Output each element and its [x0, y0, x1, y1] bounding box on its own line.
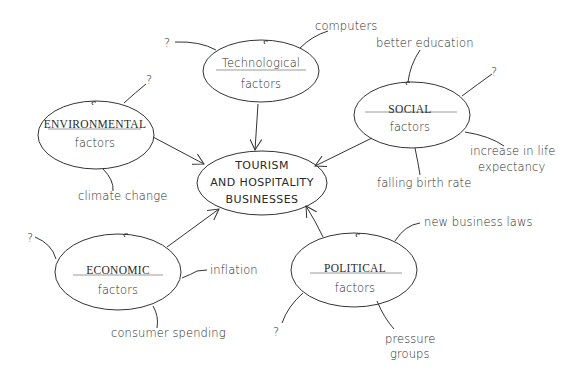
social-branch-education-label: better education — [376, 36, 474, 50]
technological-arrow — [255, 104, 258, 150]
environmental-title: ENVIRONMENTAL — [44, 118, 147, 130]
social-branch-education — [408, 50, 420, 82]
social-branch-question-label: ? — [491, 65, 497, 79]
center-node: TOURISM AND HOSPITALITY BUSINESSES — [197, 151, 327, 215]
economic-arrow — [167, 209, 219, 247]
environmental-branch-question — [124, 84, 146, 103]
economic-branch-spending-label: consumer spending — [111, 326, 226, 340]
economic-branch-question — [35, 237, 56, 259]
technological-node: Technological factors computers ? — [164, 19, 377, 150]
social-node: SOCIAL factors better education ? increa… — [315, 36, 555, 190]
social-branch-life-expectancy-label-1: increase in life — [470, 144, 555, 158]
political-branch-question-label: ? — [273, 325, 279, 339]
environmental-branch-climate — [103, 169, 113, 191]
political-branch-question — [282, 293, 303, 323]
social-subtitle: factors — [390, 120, 430, 134]
technological-branch-question — [175, 42, 216, 50]
center-line-1: TOURISM — [234, 159, 289, 172]
social-branch-question — [462, 74, 492, 96]
environmental-branch-climate-label: climate change — [78, 189, 168, 203]
technological-branch-computers — [300, 31, 328, 48]
economic-branch-question-label: ? — [27, 231, 33, 245]
economic-branch-inflation — [182, 270, 207, 278]
social-branch-birth-rate-label: falling birth rate — [377, 176, 471, 190]
center-line-3: BUSINESSES — [226, 193, 299, 206]
political-arrow — [306, 206, 323, 237]
economic-title: ECONOMIC — [86, 264, 150, 276]
environmental-ellipse — [38, 101, 154, 169]
political-branch-pressure-label-1: pressure — [385, 332, 435, 346]
political-node: POLITICAL factors new business laws ? pr… — [273, 206, 533, 361]
center-line-2: AND HOSPITALITY — [210, 176, 314, 189]
economic-subtitle: factors — [98, 283, 138, 297]
political-subtitle: factors — [335, 281, 375, 295]
technological-branch-computers-label: computers — [315, 19, 377, 33]
political-branch-laws — [395, 223, 420, 241]
social-title: SOCIAL — [388, 103, 431, 115]
environmental-subtitle: factors — [75, 136, 115, 150]
environmental-arrow — [153, 137, 204, 164]
political-branch-pressure-label-2: groups — [390, 347, 430, 361]
technological-ellipse — [203, 40, 319, 102]
economic-branch-spending — [153, 306, 158, 328]
political-branch-pressure — [377, 301, 394, 329]
mind-map-canvas: TOURISM AND HOSPITALITY BUSINESSES Techn… — [0, 0, 575, 384]
political-title: POLITICAL — [324, 262, 386, 274]
social-arrow — [315, 138, 372, 166]
social-branch-birth-rate — [415, 148, 420, 175]
social-branch-life-expectancy-label-2: expectancy — [478, 160, 545, 174]
technological-title: Technological — [222, 56, 300, 70]
environmental-node: ENVIRONMENTAL factors ? climate change — [38, 73, 204, 203]
technological-branch-question-label: ? — [164, 36, 170, 50]
economic-branch-inflation-label: inflation — [210, 263, 258, 277]
political-branch-laws-label: new business laws — [424, 215, 533, 229]
technological-subtitle: factors — [241, 77, 281, 91]
environmental-branch-question-label: ? — [146, 73, 152, 87]
economic-node: ECONOMIC factors ? inflation consumer sp… — [27, 209, 258, 340]
